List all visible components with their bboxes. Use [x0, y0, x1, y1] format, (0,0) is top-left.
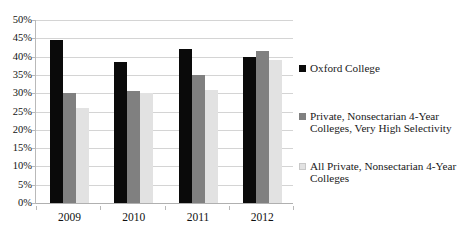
x-axis-tick-label: 2009	[38, 211, 101, 223]
legend-swatch-icon	[299, 113, 306, 120]
y-axis-tick-label: 35%	[13, 70, 32, 80]
bar-group	[179, 20, 218, 203]
y-axis: 0%5%10%15%20%25%30%35%40%45%50%	[0, 0, 34, 238]
gridline	[36, 203, 293, 204]
bar	[192, 75, 205, 203]
y-axis-tick-label: 40%	[13, 52, 32, 62]
bar-chart: 0%5%10%15%20%25%30%35%40%45%50% 20092010…	[0, 0, 459, 238]
y-axis-tick-mark	[32, 203, 36, 204]
legend-item[interactable]: Private, Nonsectarian 4-Year Colleges, V…	[299, 110, 459, 135]
y-axis-tick-label: 15%	[13, 143, 32, 153]
x-axis-tick-mark	[100, 206, 101, 210]
y-axis-tick-mark	[32, 166, 36, 167]
y-axis-tick-label: 5%	[18, 180, 32, 190]
y-axis-tick-label: 25%	[13, 107, 32, 117]
legend-swatch-icon	[299, 65, 306, 72]
bar-group	[50, 20, 89, 203]
y-axis-tick-mark	[32, 148, 36, 149]
x-axis-tick-mark	[165, 206, 166, 210]
bar	[63, 93, 76, 203]
x-axis-tick-mark	[293, 206, 294, 210]
bar	[256, 51, 269, 203]
y-axis-tick-label: 30%	[13, 88, 32, 98]
bar	[179, 49, 192, 203]
bar	[269, 60, 282, 203]
bar-group	[243, 20, 282, 203]
legend-swatch-icon	[299, 163, 306, 170]
legend-item[interactable]: Oxford College	[299, 62, 459, 74]
x-axis-tick-mark	[229, 206, 230, 210]
y-axis-tick-mark	[32, 57, 36, 58]
legend-item[interactable]: All Private, Nonsectarian 4-Year College…	[299, 160, 459, 185]
legend-label: All Private, Nonsectarian 4-Year College…	[310, 160, 459, 185]
chart-legend: Oxford CollegePrivate, Nonsectarian 4-Ye…	[299, 62, 459, 212]
plot-region: 0%5%10%15%20%25%30%35%40%45%50% 20092010…	[0, 0, 296, 238]
bar	[50, 40, 63, 203]
y-axis-tick-mark	[32, 93, 36, 94]
x-axis-tick-label: 2010	[102, 211, 165, 223]
x-axis: 2009201020112012	[36, 206, 293, 230]
y-axis-tick-mark	[32, 38, 36, 39]
bar	[205, 90, 218, 203]
bar	[127, 91, 140, 203]
y-axis-tick-label: 45%	[13, 33, 32, 43]
y-axis-tick-label: 10%	[13, 161, 32, 171]
bar-group	[114, 20, 153, 203]
y-axis-tick-mark	[32, 185, 36, 186]
y-axis-tick-mark	[32, 130, 36, 131]
bar	[140, 93, 153, 203]
y-axis-tick-mark	[32, 75, 36, 76]
x-axis-tick-label: 2012	[231, 211, 294, 223]
y-axis-tick-mark	[32, 20, 36, 21]
y-axis-tick-mark	[32, 112, 36, 113]
legend-label: Oxford College	[310, 62, 380, 74]
x-axis-tick-mark	[36, 206, 37, 210]
bar	[76, 108, 89, 203]
x-axis-tick-label: 2011	[167, 211, 230, 223]
y-axis-tick-label: 20%	[13, 125, 32, 135]
legend-label: Private, Nonsectarian 4-Year Colleges, V…	[310, 110, 459, 135]
plot-area	[36, 20, 293, 203]
y-axis-tick-label: 50%	[13, 15, 32, 25]
bar	[243, 57, 256, 203]
bar	[114, 62, 127, 203]
y-axis-tick-label: 0%	[18, 198, 32, 208]
